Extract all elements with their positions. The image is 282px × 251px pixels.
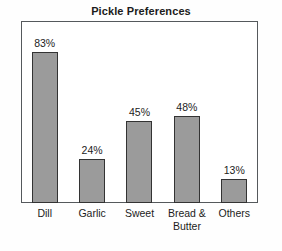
bar-value-bread-and-butter: 48%	[176, 102, 197, 113]
bar-slot-bread-and-butter: 48%	[163, 21, 210, 203]
bar-value-garlic: 24%	[82, 145, 103, 156]
pickle-preferences-chart: Pickle Preferences 83% 24% 45% 48% 13% D…	[0, 0, 282, 251]
bar-garlic[interactable]	[79, 159, 105, 203]
bar-value-dill: 83%	[34, 38, 55, 49]
bar-slot-others: 13%	[211, 21, 258, 203]
bar-value-sweet: 45%	[129, 107, 150, 118]
bar-slot-sweet: 45%	[116, 21, 163, 203]
chart-title: Pickle Preferences	[0, 5, 282, 17]
bars-layer: 83% 24% 45% 48% 13%	[21, 21, 258, 203]
category-slot-others: Others	[204, 207, 264, 220]
bar-dill[interactable]	[32, 52, 58, 203]
bar-sweet[interactable]	[126, 121, 152, 203]
bar-others[interactable]	[221, 179, 247, 203]
bar-slot-dill: 83%	[21, 21, 68, 203]
bar-slot-garlic: 24%	[68, 21, 115, 203]
bar-value-others: 13%	[224, 165, 245, 176]
category-labels-layer: Dill Garlic Sweet Bread & Butter Others	[21, 207, 258, 251]
bar-bread-and-butter[interactable]	[174, 116, 200, 203]
category-label-others: Others	[204, 207, 264, 220]
